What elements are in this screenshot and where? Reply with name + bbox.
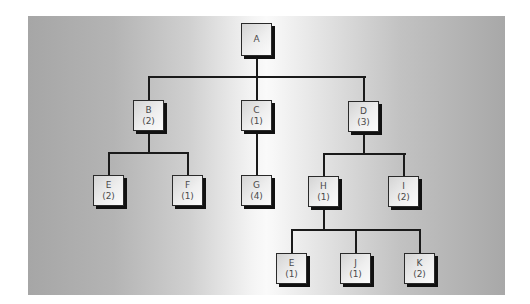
edge-a-c: [256, 76, 258, 101]
node-b-label: B: [145, 105, 151, 116]
node-i-label: I: [402, 181, 405, 192]
edge-h-k: [419, 229, 421, 254]
node-j-label: J: [354, 258, 357, 269]
node-b-count: (2): [142, 116, 155, 127]
node-k-count: (2): [413, 269, 426, 280]
node-e-under-b: E (2): [93, 175, 124, 206]
edge-a-trunk: [256, 56, 258, 78]
node-e2-count: (1): [285, 269, 298, 280]
edge-b-f: [187, 152, 189, 176]
edge-d-trunk: [363, 132, 365, 155]
node-g-count: (4): [250, 191, 263, 202]
edge-b-e: [108, 152, 110, 176]
node-e1-count: (2): [102, 191, 115, 202]
node-f-label: F: [185, 180, 190, 191]
node-b: B (2): [133, 100, 164, 131]
node-c: C (1): [241, 100, 272, 131]
node-c-label: C: [253, 105, 259, 116]
edge-d-bus: [323, 153, 406, 155]
node-d: D (3): [348, 101, 379, 132]
edge-h-j: [355, 229, 357, 254]
edge-d-h: [323, 153, 325, 177]
node-g: G (4): [241, 175, 272, 206]
node-j: J (1): [340, 253, 371, 284]
node-i: I (2): [388, 176, 419, 207]
node-f-count: (1): [181, 191, 194, 202]
node-j-count: (1): [349, 269, 362, 280]
edge-a-d: [363, 76, 365, 102]
edge-b-trunk: [148, 131, 150, 154]
node-g-label: G: [253, 180, 260, 191]
node-d-count: (3): [357, 117, 370, 128]
node-c-count: (1): [250, 116, 263, 127]
node-a-label: A: [253, 34, 259, 45]
node-e1-label: E: [106, 180, 112, 191]
node-h-label: H: [320, 181, 327, 192]
edge-c-g: [256, 131, 258, 176]
edge-h-trunk: [323, 207, 325, 231]
node-f: F (1): [172, 175, 203, 206]
node-a: A: [241, 23, 272, 56]
node-d-label: D: [360, 106, 367, 117]
edge-a-b: [148, 76, 150, 101]
node-e-under-h: E (1): [276, 253, 307, 284]
edge-h-e: [291, 229, 293, 254]
edge-b-bus: [108, 152, 189, 154]
node-h-count: (1): [317, 192, 330, 203]
node-h: H (1): [308, 176, 339, 207]
node-k-label: K: [417, 258, 423, 269]
node-i-count: (2): [397, 192, 410, 203]
node-e2-label: E: [289, 258, 295, 269]
node-k: K (2): [404, 253, 435, 284]
edge-d-i: [403, 153, 405, 177]
